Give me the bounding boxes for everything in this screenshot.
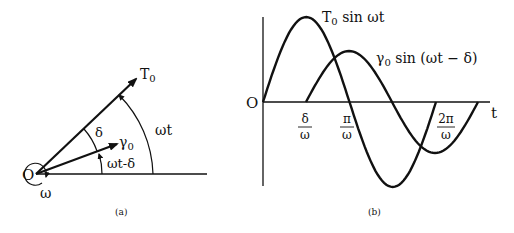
phasor-gamma0-label: γ0: [119, 134, 134, 152]
panel-a: O ω T0 γ0 δ ωt ωt-δ (a): [22, 66, 207, 217]
tick-2pi-over-omega: 2π ω: [437, 112, 455, 142]
svg-text:ω: ω: [342, 128, 352, 142]
angle-wt-label: ωt: [155, 122, 172, 138]
tick-delta-over-omega: δ ω: [298, 112, 312, 142]
svg-text:ω: ω: [300, 128, 310, 142]
t-axis-label: t: [491, 104, 497, 122]
phasor-diagram-figure: O ω T0 γ0 δ ωt ωt-δ (a) O t T0 sin ωt γ0…: [0, 0, 514, 233]
arc-wt-minus-delta: [99, 154, 102, 174]
curve-gamma0-label: γ0 sin (ωt − δ): [376, 50, 477, 68]
svg-text:δ: δ: [301, 112, 308, 126]
svg-text:π: π: [343, 112, 351, 126]
tick-pi-over-omega: π ω: [340, 112, 354, 142]
caption-a: (a): [115, 207, 127, 217]
phasor-T0-label: T0: [140, 66, 156, 84]
curve-T0-label: T0 sin ωt: [322, 9, 385, 27]
angle-delta-label: δ: [95, 125, 103, 140]
phasor-gamma0-arrow: [36, 144, 117, 174]
origin-label-b: O: [246, 94, 258, 112]
omega-label: ω: [40, 185, 51, 201]
caption-b: (b): [368, 207, 381, 217]
angle-wt-minus-delta-label: ωt-δ: [107, 156, 135, 171]
panel-b: O t T0 sin ωt γ0 sin (ωt − δ) δ ω π ω 2π…: [246, 9, 497, 217]
svg-text:ω: ω: [441, 128, 451, 142]
svg-text:2π: 2π: [438, 112, 454, 126]
origin-label-a: O: [22, 166, 34, 184]
